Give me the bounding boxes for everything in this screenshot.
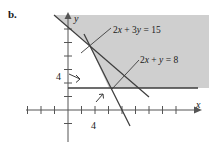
equation-label-2x-y-8: 2x + y = 8 [140,55,178,65]
x-axis-tick-label-4: 4 [91,120,96,131]
y-axis-label: y [74,13,78,24]
direction-arrow-lower [96,94,104,102]
graph-canvas [0,0,209,146]
y-axis-tick-label-4: 4 [56,71,61,82]
equation-label-2x-3y-15: 2x + 3y = 15 [113,25,161,35]
x-axis-label: x [196,99,200,110]
linear-programming-figure: b. [0,0,209,146]
direction-arrow-upper [69,74,80,83]
